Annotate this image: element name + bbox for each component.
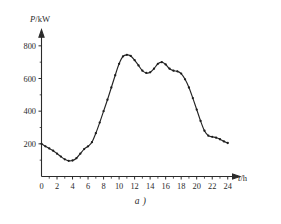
data-point-marker: [102, 110, 104, 112]
data-point-marker: [207, 135, 209, 137]
data-point-marker: [192, 97, 194, 99]
data-point-marker: [110, 86, 112, 88]
data-point-marker: [99, 121, 101, 123]
data-point-marker: [153, 68, 155, 70]
data-point-marker: [126, 54, 128, 56]
y-axis-arrow: [39, 30, 44, 38]
data-point-marker: [157, 63, 159, 65]
x-tick-label: 20: [193, 182, 201, 191]
x-axis-tick-labels: 024681012141618202224: [39, 182, 232, 191]
x-tick-label: 16: [161, 182, 169, 191]
data-point-marker: [223, 140, 225, 142]
data-point-marker: [184, 78, 186, 80]
y-tick-label: 800: [23, 42, 36, 51]
data-point-marker: [64, 158, 66, 160]
data-point-marker: [95, 132, 97, 134]
data-point-marker: [48, 147, 50, 149]
data-point-marker: [71, 159, 73, 161]
x-tick-label: 24: [224, 182, 233, 191]
y-tick-label: 200: [23, 140, 36, 149]
data-point-marker: [227, 142, 229, 144]
data-point-marker: [176, 70, 178, 72]
x-tick-label: 6: [86, 182, 90, 191]
load-curve-markers: [40, 54, 229, 162]
data-point-marker: [161, 61, 163, 63]
x-tick-label: 8: [101, 182, 105, 191]
y-tick-label: 600: [23, 75, 36, 84]
data-point-marker: [137, 64, 139, 66]
x-tick-label: 14: [146, 182, 155, 191]
data-point-marker: [168, 68, 170, 70]
x-tick-label: 2: [55, 182, 59, 191]
x-tick-label: 4: [70, 182, 75, 191]
data-point-marker: [180, 72, 182, 74]
data-point-marker: [215, 136, 217, 138]
chart-figure: 200400600800 024681012141618202224 P/kW …: [0, 0, 281, 224]
data-point-marker: [141, 70, 143, 72]
data-point-marker: [114, 74, 116, 76]
data-point-marker: [165, 63, 167, 65]
data-point-marker: [211, 136, 213, 138]
x-tick-label: 0: [39, 182, 43, 191]
data-point-marker: [199, 120, 201, 122]
data-point-marker: [83, 148, 85, 150]
x-tick-label: 10: [115, 182, 123, 191]
data-point-marker: [52, 150, 54, 152]
data-point-marker: [56, 152, 58, 154]
data-point-marker: [196, 108, 198, 110]
load-curve-line: [42, 55, 228, 161]
data-point-marker: [203, 130, 205, 132]
data-point-marker: [87, 145, 89, 147]
data-point-marker: [145, 72, 147, 74]
x-axis-title: t/h: [238, 173, 248, 183]
chart-axes: [39, 30, 240, 179]
data-point-marker: [79, 152, 81, 154]
data-point-marker: [68, 160, 70, 162]
data-point-marker: [133, 59, 135, 61]
power-load-line-chart: 200400600800 024681012141618202224 P/kW …: [0, 0, 281, 224]
x-tick-label: 22: [208, 182, 216, 191]
data-point-marker: [106, 99, 108, 101]
data-point-marker: [149, 71, 151, 73]
y-axis-title: P/kW: [29, 14, 51, 24]
data-point-marker: [60, 155, 62, 157]
data-point-marker: [130, 55, 132, 57]
data-point-marker: [172, 70, 174, 72]
data-point-marker: [122, 55, 124, 57]
x-tick-label: 12: [130, 182, 138, 191]
y-axis-tick-labels: 200400600800: [23, 42, 36, 149]
data-point-marker: [188, 86, 190, 88]
y-tick-label: 400: [23, 107, 36, 116]
data-point-marker: [91, 141, 93, 143]
data-point-marker: [44, 145, 46, 147]
data-point-marker: [219, 138, 221, 140]
data-point-marker: [75, 157, 77, 159]
figure-caption: a ): [0, 196, 281, 206]
x-tick-label: 18: [177, 182, 185, 191]
data-point-marker: [118, 63, 120, 65]
data-point-marker: [40, 143, 42, 145]
